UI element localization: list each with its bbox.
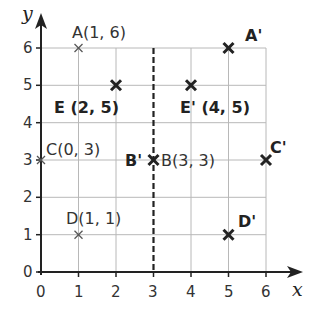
svg-text:6: 6 [261,283,271,301]
svg-text:5: 5 [23,76,33,94]
svg-text:3: 3 [148,283,158,301]
svg-text:1: 1 [74,283,84,301]
coordinate-grid-diagram: y x 6 5 4 3 2 1 0 0 1 2 3 4 5 6 A(1, 6) … [0,0,313,315]
original-points: A(1, 6) C(0, 3) D(1, 1) B(3, 3) [37,23,215,239]
point-b-label: B(3, 3) [161,151,215,170]
x-axis-label: x [292,278,303,300]
point-c-prime-label: C' [270,138,287,157]
svg-text:0: 0 [36,283,46,301]
svg-text:2: 2 [111,283,121,301]
image-points: E (2, 5) A' E' (4, 5) B' C' D' [54,26,287,240]
svg-text:6: 6 [23,39,33,57]
svg-text:4: 4 [23,114,33,132]
point-a-label: A(1, 6) [72,23,126,42]
svg-text:2: 2 [23,188,33,206]
svg-text:5: 5 [224,283,234,301]
svg-text:3: 3 [23,151,33,169]
y-tick-labels: 6 5 4 3 2 1 0 [23,39,33,281]
point-d-prime-label: D' [238,212,256,231]
point-b-prime-label: B' [125,151,142,170]
y-axis-label: y [21,2,33,24]
svg-text:4: 4 [186,283,196,301]
point-d-label: D(1, 1) [66,209,121,228]
point-c-label: C(0, 3) [46,140,100,159]
svg-text:0: 0 [23,263,33,281]
point-a-prime-label: A' [245,26,262,45]
svg-text:1: 1 [23,226,33,244]
x-tick-labels: 0 1 2 3 4 5 6 [36,283,271,301]
point-e-prime-label: E' (4, 5) [180,98,250,117]
point-e-label: E (2, 5) [54,98,119,117]
